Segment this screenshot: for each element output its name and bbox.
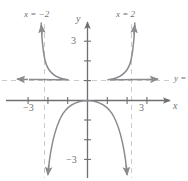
curve-middle-branch-arrow-right (126, 165, 127, 175)
asymptote-label-x-neg2: x = −2 (24, 10, 49, 19)
x-tick-label-neg3: −3 (23, 103, 34, 113)
curve-right-branch-arrow-right (147, 79, 158, 80)
curve-left-branch-arrow-left (17, 79, 28, 80)
curve-left-branch-arrow-up (41, 25, 42, 34)
curve-right-branch-arrow-up (134, 25, 135, 34)
y-tick-label-3: 3 (71, 36, 76, 46)
graph-canvas (0, 0, 188, 181)
x-axis-label: x (173, 101, 177, 111)
asymptote-label-y: y = (174, 74, 186, 83)
x-tick-label-3: 3 (139, 103, 144, 113)
y-axis-label: y (76, 14, 80, 24)
curve-middle-branch-arrow-left (48, 165, 49, 175)
asymptote-label-x-pos2: x = 2 (116, 10, 135, 19)
graph-figure: x = −2 x = 2 y = y x 3 −3 3 −3 (0, 0, 188, 181)
y-tick-label-neg3: −3 (66, 155, 77, 165)
curve-left-branch (41, 23, 68, 80)
curve-right-branch (108, 23, 135, 80)
